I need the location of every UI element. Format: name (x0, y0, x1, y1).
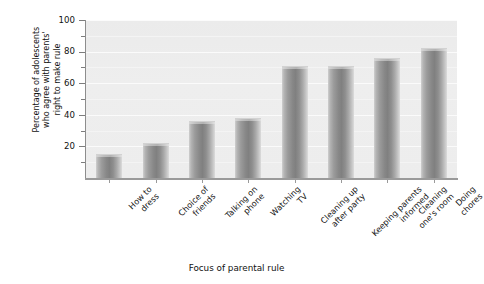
bar-7 (374, 58, 400, 178)
bar-4 (235, 118, 261, 178)
plot-area (86, 20, 457, 178)
bar-8 (421, 48, 447, 178)
gridline-30 (86, 131, 457, 132)
y-tick-60 (79, 83, 85, 84)
y-tick-30 (81, 131, 85, 132)
gridline-80 (86, 52, 457, 53)
y-tick-80 (79, 52, 85, 53)
y-tick-20 (79, 146, 85, 147)
x-tick-6 (341, 179, 342, 183)
y-tick-label-60: 60 (47, 79, 75, 88)
y-tick-70 (81, 67, 85, 68)
gridline-60 (86, 83, 457, 84)
y-tick-10 (81, 162, 85, 163)
y-tick-100 (79, 20, 85, 21)
y-tick-label-100: 100 (47, 16, 75, 25)
x-tick-2 (156, 179, 157, 183)
x-tick-label-3: Talking onphone (223, 184, 267, 228)
y-tick-40 (79, 115, 85, 116)
gridline-40 (86, 115, 457, 116)
y-axis-title-line-1: Percentage of adolescents (31, 0, 41, 160)
x-tick-label-8: Doingchores (451, 184, 484, 218)
gridline-100 (86, 20, 457, 21)
gridline-70 (86, 67, 457, 68)
y-tick-label-40: 40 (47, 111, 75, 120)
x-tick-label-4: WatchingTV (268, 184, 309, 225)
x-axis-line (85, 178, 458, 180)
x-tick-label-5: Cleaning upafter party (318, 184, 367, 233)
x-tick-7 (387, 179, 388, 183)
x-tick-8 (434, 179, 435, 183)
y-tick-50 (81, 99, 85, 100)
gridline-90 (86, 36, 457, 37)
x-tick-3 (202, 179, 203, 183)
bar-6 (328, 66, 354, 178)
y-axis-line (85, 20, 86, 179)
gridline-50 (86, 99, 457, 100)
x-tick-4 (248, 179, 249, 183)
bar-5 (282, 66, 308, 178)
x-tick-5 (295, 179, 296, 183)
y-tick-label-20: 20 (47, 142, 75, 151)
y-tick-label-80: 80 (47, 47, 75, 56)
x-tick-label-2: Choice offriends (176, 184, 217, 225)
bar-2 (143, 143, 169, 178)
x-tick-1 (109, 179, 110, 183)
bar-3 (189, 121, 215, 178)
x-axis-title: Focus of parental rule (0, 263, 473, 273)
y-tick-90 (81, 36, 85, 37)
bar-1 (96, 154, 122, 178)
x-tick-label-1: How todress (127, 184, 162, 219)
